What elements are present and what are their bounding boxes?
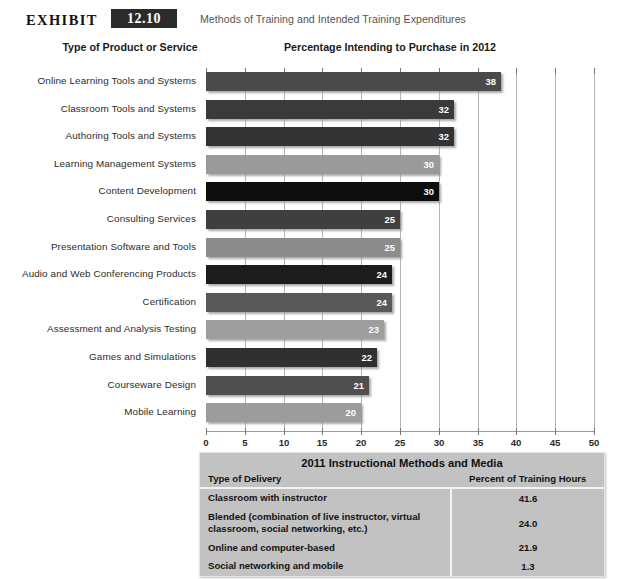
table-row: Social networking and mobile1.3 <box>200 557 604 576</box>
x-axis-tick-label: 0 <box>191 437 221 448</box>
bar-container: 20 <box>206 403 361 422</box>
x-axis-tick-40 <box>516 428 517 435</box>
bar-container: 25 <box>206 238 400 257</box>
x-axis-tick-5 <box>245 428 246 435</box>
table-col-percent-of-training-hours: Percent of Training Hours <box>451 472 604 488</box>
table-cell-delivery: Online and computer-based <box>200 539 451 558</box>
bar-category-label: Online Learning Tools and Systems <box>0 68 196 94</box>
table-body: Classroom with instructor41.6Blended (co… <box>200 488 604 576</box>
bar-container: 38 <box>206 72 501 91</box>
bar-category-label: Presentation Software and Tools <box>0 234 196 260</box>
bar-container: 32 <box>206 127 454 146</box>
exhibit-header: EXHIBIT 12.10 Methods of Training and In… <box>0 0 618 40</box>
bar-value-label: 24 <box>377 293 387 312</box>
bar-container: 23 <box>206 320 384 339</box>
bar-category-label: Authoring Tools and Systems <box>0 123 196 149</box>
bar-category-label: Audio and Web Conferencing Products <box>0 261 196 287</box>
bar-row: Assessment and Analysis Testing23 <box>0 316 618 342</box>
x-axis-tick-label: 5 <box>230 437 260 448</box>
bar <box>206 293 392 312</box>
table-cell-percent: 24.0 <box>451 508 604 539</box>
bar <box>206 210 400 229</box>
exhibit-number-text: 12.10 <box>111 9 177 28</box>
x-axis-tick-20 <box>361 428 362 435</box>
bar-container: 24 <box>206 265 392 284</box>
x-axis-tick-0 <box>206 428 207 435</box>
bar-category-label: Games and Simulations <box>0 344 196 370</box>
x-axis-tick-label: 45 <box>540 437 570 448</box>
table-cell-delivery: Blended (combination of live instructor,… <box>200 508 451 539</box>
x-axis-tick-50 <box>594 428 595 435</box>
table-cell-percent: 41.6 <box>451 488 604 508</box>
x-axis-tick-label: 30 <box>424 437 454 448</box>
table-grid: Type of Delivery Percent of Training Hou… <box>200 472 604 576</box>
bar-container: 30 <box>206 155 439 174</box>
x-axis-tick-label: 20 <box>346 437 376 448</box>
bar-value-label: 38 <box>486 72 496 91</box>
x-axis-tick-30 <box>439 428 440 435</box>
bar <box>206 72 501 91</box>
bar-category-label: Content Development <box>0 178 196 204</box>
bar-row: Authoring Tools and Systems32 <box>0 123 618 149</box>
bar-value-label: 21 <box>354 376 364 395</box>
bar-value-label: 30 <box>424 182 434 201</box>
bar-row: Presentation Software and Tools25 <box>0 234 618 260</box>
exhibit-caption: Methods of Training and Intended Trainin… <box>200 13 466 25</box>
bar-container: 24 <box>206 293 392 312</box>
bar <box>206 100 454 119</box>
exhibit-number-badge: 12.10 <box>111 9 177 28</box>
table-row: Classroom with instructor41.6 <box>200 488 604 508</box>
bar <box>206 348 377 367</box>
bar-row: Learning Management Systems30 <box>0 151 618 177</box>
bar <box>206 127 454 146</box>
x-axis-tick-label: 15 <box>307 437 337 448</box>
table-head: Type of Delivery Percent of Training Hou… <box>200 472 604 488</box>
bar-value-label: 32 <box>439 100 449 119</box>
bar-value-label: 32 <box>439 127 449 146</box>
table-row: Blended (combination of live instructor,… <box>200 508 604 539</box>
bar-row: Content Development30 <box>0 178 618 204</box>
table-col-type-of-delivery: Type of Delivery <box>200 472 451 488</box>
x-axis-tick-15 <box>322 428 323 435</box>
bar-container: 32 <box>206 100 454 119</box>
x-axis-tick-label: 50 <box>579 437 609 448</box>
bar-row: Classroom Tools and Systems32 <box>0 96 618 122</box>
bar-category-label: Assessment and Analysis Testing <box>0 316 196 342</box>
exhibit-label: EXHIBIT <box>26 12 98 29</box>
x-axis-tick-label: 40 <box>501 437 531 448</box>
x-axis-tick-35 <box>478 428 479 435</box>
column-heading-left: Type of Product or Service <box>55 41 205 53</box>
bar-row: Games and Simulations22 <box>0 344 618 370</box>
bar-container: 25 <box>206 210 400 229</box>
bar <box>206 265 392 284</box>
bar-row: Audio and Web Conferencing Products24 <box>0 261 618 287</box>
x-axis-tick-25 <box>400 428 401 435</box>
bar-value-label: 30 <box>424 155 434 174</box>
bar-value-label: 25 <box>385 238 395 257</box>
x-axis-tick-45 <box>555 428 556 435</box>
bar <box>206 376 369 395</box>
bar-category-label: Courseware Design <box>0 372 196 398</box>
bar-chart: 05101520253035404550 Online Learning Too… <box>0 64 618 444</box>
bar-row: Certification24 <box>0 289 618 315</box>
instructional-methods-table: 2011 Instructional Methods and Media Typ… <box>199 452 605 577</box>
bar-container: 30 <box>206 182 439 201</box>
table-title: 2011 Instructional Methods and Media <box>200 453 604 472</box>
bar-value-label: 20 <box>346 403 356 422</box>
bar-value-label: 25 <box>385 210 395 229</box>
bar <box>206 155 439 174</box>
bar-container: 21 <box>206 376 369 395</box>
bar-value-label: 22 <box>362 348 372 367</box>
bar-container: 22 <box>206 348 377 367</box>
bar-row: Online Learning Tools and Systems38 <box>0 68 618 94</box>
table-header-row: Type of Delivery Percent of Training Hou… <box>200 472 604 488</box>
table-cell-delivery: Classroom with instructor <box>200 488 451 508</box>
bar-row: Consulting Services25 <box>0 206 618 232</box>
table-cell-delivery: Social networking and mobile <box>200 557 451 576</box>
table-cell-percent: 1.3 <box>451 557 604 576</box>
bar <box>206 403 361 422</box>
bar-row: Courseware Design21 <box>0 372 618 398</box>
bar-value-label: 23 <box>369 320 379 339</box>
bar-category-label: Mobile Learning <box>0 399 196 425</box>
x-axis-tick-10 <box>284 428 285 435</box>
